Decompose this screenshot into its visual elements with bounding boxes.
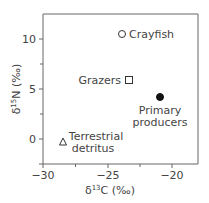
primary-producers-marker-icon [157, 94, 164, 101]
x-tick-label: −20 [160, 169, 183, 182]
x-tick-label: −25 [96, 169, 119, 182]
crayfish-label: Crayfish [129, 28, 174, 41]
crayfish-marker-icon [119, 31, 126, 38]
y-axis-ticks [39, 39, 43, 164]
y-tick-label: 10 [22, 33, 36, 46]
grazers-label: Grazers [78, 74, 121, 87]
grazers-marker-icon [126, 77, 133, 84]
terrestrial-detritus-label-line2: detritus [72, 142, 115, 155]
y-tick-label: 0 [29, 133, 36, 146]
y-tick-label: 5 [29, 83, 36, 96]
x-tick-label: −30 [31, 169, 54, 182]
primary-producers-label-line2: producers [132, 116, 187, 129]
x-axis-label: δ13C (‰) [85, 184, 135, 197]
x-axis-ticks [43, 164, 172, 168]
scatter-chart: −30 −25 −20 10 5 0 δ13C (‰) δ15N (‰) Cra… [0, 0, 209, 203]
y-axis-label: δ15N (‰) [10, 64, 23, 115]
terrestrial-detritus-marker-icon [60, 138, 67, 145]
